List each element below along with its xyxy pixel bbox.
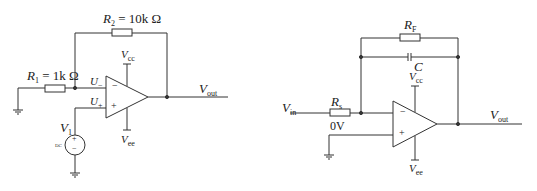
diagram-canvas: R2 = 10k Ω R1 = 1k Ω U− U+ Vcc Vee Vout … <box>0 0 537 191</box>
junction-dot <box>73 86 76 89</box>
source-minus-sign: − <box>72 145 77 153</box>
vcc-label: Vcc <box>409 71 423 85</box>
vout-label: Vout <box>199 82 217 98</box>
zero-volt-label: 0V <box>330 120 345 132</box>
vin-label: Vin <box>282 101 296 117</box>
ground-icon <box>324 155 334 159</box>
junction-dot <box>456 55 459 58</box>
ground-icon <box>70 173 80 177</box>
right-circuit <box>290 34 522 160</box>
rf-resistor <box>400 34 420 41</box>
source-plus-sign: + <box>72 135 77 143</box>
vee-label: Vee <box>409 163 423 177</box>
u-minus-label: U− <box>90 76 102 90</box>
rs-label: Rs <box>331 95 342 111</box>
ground-icon <box>13 110 23 114</box>
junction-dot <box>456 122 459 125</box>
junction-dot <box>359 111 362 114</box>
r2-label: R2 = 10k Ω <box>103 12 161 28</box>
noninverting-sign: + <box>111 101 117 111</box>
vee-label: Vee <box>121 134 135 148</box>
inverting-sign: − <box>112 81 118 91</box>
r1-label: R1 = 1k Ω <box>27 69 79 85</box>
junction-dot <box>359 55 362 58</box>
r1-resistor <box>45 85 65 92</box>
dc-label: DC <box>55 143 62 148</box>
v1-label: V1 <box>60 121 72 137</box>
vcc-label: Vcc <box>121 49 135 63</box>
inverting-sign: − <box>400 107 406 117</box>
r2-resistor <box>112 29 132 36</box>
u-plus-label: U+ <box>90 96 102 110</box>
vout-label: Vout <box>490 108 508 124</box>
junction-dot <box>165 95 168 98</box>
rf-label: RF <box>404 18 416 34</box>
circuit-drawing <box>0 0 537 191</box>
noninverting-sign: + <box>399 128 405 138</box>
